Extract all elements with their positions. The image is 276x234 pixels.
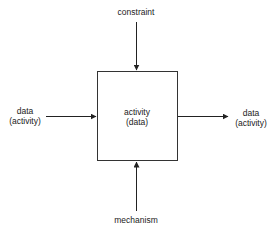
activity-label: activity (data)	[107, 107, 167, 127]
input-label-line1: data	[2, 106, 48, 116]
output-label-line1: data	[228, 108, 274, 118]
activity-label-line1: activity	[107, 107, 167, 117]
input-label-line2: (activity)	[2, 116, 48, 126]
activity-label-line2: (data)	[107, 117, 167, 127]
constraint-label: constraint	[106, 7, 166, 17]
mechanism-label: mechanism	[106, 215, 166, 225]
input-label: data (activity)	[2, 106, 48, 126]
output-label-line2: (activity)	[228, 118, 274, 128]
output-label: data (activity)	[228, 108, 274, 128]
